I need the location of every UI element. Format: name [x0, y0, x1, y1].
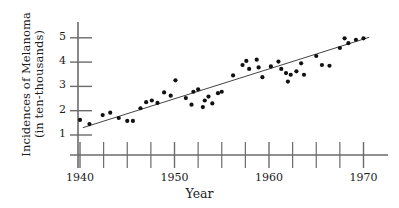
data-point[interactable] [279, 67, 283, 71]
data-point[interactable] [284, 71, 288, 75]
data-point[interactable] [216, 91, 220, 95]
data-point[interactable] [101, 113, 105, 117]
data-point[interactable] [155, 101, 159, 105]
data-point[interactable] [260, 75, 264, 79]
data-point[interactable] [343, 36, 347, 40]
data-point[interactable] [125, 119, 129, 123]
melanoma-scatter-figure: Incidences of Melanoma (in ten-thousands… [0, 0, 399, 208]
data-point[interactable] [144, 100, 148, 104]
x-tick-label-1960: 1960 [247, 171, 291, 184]
data-point[interactable] [189, 103, 193, 107]
data-point[interactable] [191, 90, 195, 94]
data-point[interactable] [203, 98, 207, 102]
data-point[interactable] [206, 95, 210, 99]
regression-line [83, 37, 369, 127]
data-point[interactable] [131, 119, 135, 123]
x-tick-label-1970: 1970 [342, 171, 386, 184]
data-point[interactable] [247, 67, 251, 71]
y-tick-label-1: 1 [44, 127, 66, 140]
data-point[interactable] [117, 116, 121, 120]
data-point[interactable] [276, 60, 280, 64]
data-point[interactable] [299, 61, 303, 65]
data-point[interactable] [162, 90, 166, 94]
data-point[interactable] [169, 94, 173, 98]
data-point[interactable] [173, 78, 177, 82]
data-point[interactable] [220, 90, 224, 94]
data-point[interactable] [354, 38, 358, 42]
x-tick-label-1940: 1940 [58, 171, 102, 184]
data-point[interactable] [201, 105, 205, 109]
data-point[interactable] [244, 59, 248, 63]
data-point[interactable] [314, 54, 318, 58]
y-tick-label-4: 4 [44, 54, 66, 67]
y-axis-title-line-1: Incidences of Melanoma [20, 12, 34, 157]
data-point[interactable] [196, 87, 200, 91]
data-point[interactable] [361, 36, 365, 40]
data-point[interactable] [289, 73, 293, 77]
data-point[interactable] [138, 106, 142, 110]
data-point[interactable] [302, 73, 306, 77]
data-point-group [78, 36, 366, 126]
y-tick-label-2: 2 [44, 103, 66, 116]
data-point[interactable] [87, 122, 91, 126]
data-point[interactable] [346, 41, 350, 45]
data-point[interactable] [255, 58, 259, 62]
y-tick-label-5: 5 [44, 30, 66, 43]
data-point[interactable] [150, 98, 154, 102]
data-point[interactable] [78, 118, 82, 122]
data-point[interactable] [240, 63, 244, 67]
data-point[interactable] [257, 65, 261, 69]
x-tick-label-1950: 1950 [153, 171, 197, 184]
data-point[interactable] [294, 69, 298, 73]
data-point[interactable] [320, 63, 324, 67]
data-point[interactable] [210, 101, 214, 105]
data-point[interactable] [269, 64, 273, 68]
y-tick-label-3: 3 [44, 78, 66, 91]
data-point[interactable] [338, 46, 342, 50]
data-point[interactable] [231, 73, 235, 77]
data-point[interactable] [108, 111, 112, 115]
data-point[interactable] [286, 79, 290, 83]
data-point[interactable] [184, 96, 188, 100]
data-point[interactable] [327, 64, 331, 68]
x-axis-title: Year [0, 186, 399, 201]
